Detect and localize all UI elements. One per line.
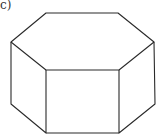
top-face [11,13,154,70]
hexagonal-prism-diagram [0,0,157,135]
